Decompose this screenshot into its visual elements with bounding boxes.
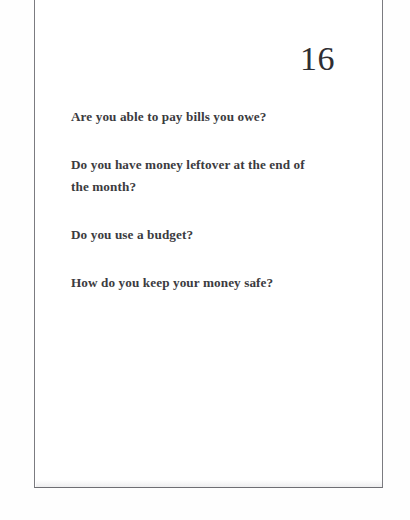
- question-list: Are you able to pay bills you owe? Do yo…: [71, 106, 353, 294]
- question-item: Do you have money leftover at the end of…: [71, 154, 309, 198]
- scanned-page-canvas: 16 Are you able to pay bills you owe? Do…: [0, 0, 410, 520]
- question-item: Do you use a budget?: [71, 224, 353, 246]
- question-item: How do you keep your money safe?: [71, 272, 353, 294]
- question-item: Are you able to pay bills you owe?: [71, 106, 353, 128]
- page-number: 16: [300, 40, 335, 78]
